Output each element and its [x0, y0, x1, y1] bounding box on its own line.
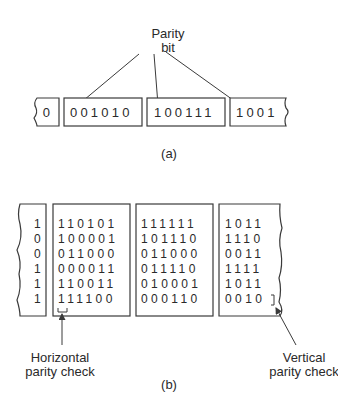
parity-diagram: Parity bit 0 001010 100111 1001 (a) 1 0 …: [0, 0, 338, 401]
column-3: 1011 1110 0011 1111 1011 0010: [225, 217, 265, 306]
arrow-1: [78, 54, 139, 105]
callout-parity: Parity: [151, 26, 185, 41]
bit-row: 1011: [225, 277, 264, 291]
bit-row: 110011: [58, 277, 117, 291]
arrow-3: [166, 52, 240, 105]
callout-bit: bit: [161, 40, 175, 55]
caption-a: (a): [161, 146, 177, 161]
bit-row: 1: [34, 292, 44, 306]
bits-3: 1001: [236, 105, 278, 120]
bit-row: 011110: [141, 262, 199, 276]
bit-row: 1110: [225, 232, 264, 246]
bit-row: 111111: [141, 217, 197, 231]
bit-row: 011000: [141, 247, 201, 261]
bits-1: 001010: [70, 105, 133, 120]
vertical-label-1: Vertical: [283, 350, 326, 365]
bit-row: 0011: [225, 247, 264, 261]
bit-row: 1: [34, 277, 44, 291]
horizontal-label-1: Horizontal: [31, 350, 90, 365]
bit-row: 000011: [58, 262, 118, 276]
vertical-label-2: parity check: [269, 364, 338, 379]
bit-row: 101110: [141, 232, 200, 246]
bit-row: 0010: [225, 292, 265, 306]
bit-row: 1: [34, 217, 44, 231]
part-a: Parity bit 0 001010 100111 1001 (a): [34, 26, 288, 161]
arrow-2: [154, 54, 158, 105]
bit-row: 1111: [225, 262, 263, 276]
bit-row: 011000: [58, 247, 118, 261]
bits-0: 0: [43, 105, 53, 120]
bit-row: 0: [34, 232, 44, 246]
bit-row: 110101: [58, 217, 118, 231]
column-1: 110101 100001 011000 000011 110011 11110…: [58, 217, 118, 306]
column-0: 1 0 0 1 1 1: [34, 217, 44, 306]
vertical-parity-arrow: [276, 308, 296, 345]
bit-row: 111100: [58, 292, 116, 306]
bit-row: 010001: [141, 277, 201, 291]
column-2: 111111 101110 011000 011110 010001 00011…: [141, 217, 201, 306]
bits-2: 100111: [154, 105, 215, 120]
caption-b: (b): [161, 377, 177, 392]
bit-row: 1011: [225, 217, 264, 231]
bit-row: 1: [34, 262, 44, 276]
bit-row: 0: [34, 247, 44, 261]
part-b: 1 0 0 1 1 1 110101 100001 011000 000011 …: [17, 204, 338, 392]
horizontal-label-2: parity check: [25, 364, 95, 379]
bit-row: 100001: [58, 232, 118, 246]
bit-row: 000110: [141, 292, 201, 306]
